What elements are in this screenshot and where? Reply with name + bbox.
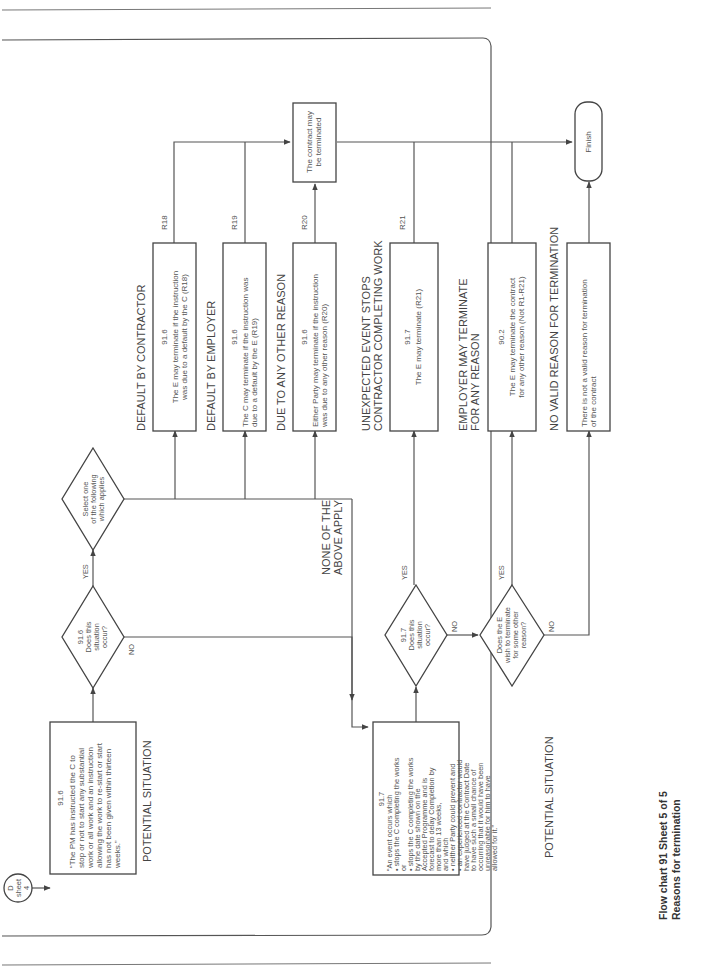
- no-label-917: NO: [450, 621, 459, 632]
- svg-text:NONE OF THE: NONE OF THE: [320, 500, 332, 575]
- svg-text:allowed for it.”: allowed for it.”: [490, 824, 499, 871]
- svg-text:• stops the C completing the w: • stops the C completing the works: [392, 757, 401, 871]
- svg-text:The contract may: The contract may: [305, 111, 314, 173]
- svg-text:The E may terminate (R21): The E may terminate (R21): [414, 288, 423, 385]
- svg-text:The C may terminate if the ins: The C may terminate if the instruction w…: [241, 278, 250, 427]
- svg-text:Finish: Finish: [584, 131, 593, 152]
- heading-default-contractor: DEFAULT BY CONTRACTOR: [135, 284, 147, 431]
- top-page-rule: [2, 8, 491, 10]
- svg-text:UNEXPECTED EVENT STOPS: UNEXPECTED EVENT STOPS: [360, 276, 372, 431]
- svg-text:91.6: 91.6: [160, 329, 169, 345]
- potential-situation-label-2: POTENTIAL SITUATION: [543, 736, 555, 858]
- svg-text:stop or not to start any subst: stop or not to start any substantial: [77, 748, 86, 868]
- svg-text:91.6: 91.6: [56, 790, 65, 806]
- svg-text:ABOVE APPLY: ABOVE APPLY: [332, 499, 344, 575]
- heading-employer-any-reason: EMPLOYER MAY TERMINATE FOR ANY REASON: [457, 278, 481, 431]
- svg-text:Either Party may terminate if: Either Party may terminate if the instru…: [311, 274, 320, 427]
- svg-text:Reasons for termination: Reasons for termination: [670, 799, 682, 920]
- svg-text:91.7: 91.7: [403, 329, 412, 345]
- ref-r21: R21: [398, 215, 407, 230]
- svg-text:91.6: 91.6: [300, 329, 309, 345]
- svg-text:The E may terminate if the ins: The E may terminate if the instruction: [171, 271, 180, 404]
- svg-text:be terminated: be terminated: [314, 118, 323, 167]
- bottom-page-rule: [2, 963, 491, 965]
- svg-text:due to a default by the E (R19: due to a default by the E (R19): [250, 318, 259, 427]
- yes-label-917: YES: [400, 565, 409, 580]
- potential-situation-label-1: POTENTIAL SITUATION: [141, 740, 153, 862]
- figure-caption: Flow chart 91 Sheet 5 of 5 Reasons for t…: [657, 791, 682, 920]
- svg-text:allowing the work to re-start: allowing the work to re-start or start: [95, 742, 104, 868]
- svg-text:4: 4: [22, 886, 31, 890]
- svg-text:There is not a valid reason fo: There is not a valid reason for terminat…: [580, 279, 589, 427]
- svg-text:CONTRACTOR COMPLETING WORK: CONTRACTOR COMPLETING WORK: [372, 240, 384, 431]
- no-label-916: NO: [127, 644, 136, 655]
- no-label-other: NO: [547, 621, 556, 632]
- heading-unexpected-event: UNEXPECTED EVENT STOPS CONTRACTOR COMPLE…: [360, 240, 384, 431]
- svg-text:Flow chart 91 Sheet 5 of 5: Flow chart 91 Sheet 5 of 5: [657, 791, 669, 920]
- svg-text:has not been given within thir: has not been given within thirteen: [104, 749, 113, 868]
- svg-text:90.2: 90.2: [497, 329, 506, 345]
- svg-text:was due to a default by the C: was due to a default by the C (R18): [180, 274, 189, 401]
- flowchart-page: D sheet 4 91.6 “The PM has instructed th…: [0, 0, 702, 975]
- heading-default-employer: DEFAULT BY EMPLOYER: [205, 301, 217, 431]
- svg-text:FOR ANY REASON: FOR ANY REASON: [469, 333, 481, 431]
- svg-text:which applies: which applies: [97, 477, 106, 523]
- svg-text:reason?: reason?: [519, 622, 528, 649]
- svg-text:for any other reason (Not R1-R: for any other reason (Not R1-R21): [517, 276, 526, 398]
- svg-text:occur?: occur?: [423, 624, 432, 646]
- svg-text:“The PM has instructed the C t: “The PM has instructed the C to: [68, 755, 77, 868]
- yes-label-other: YES: [497, 565, 506, 580]
- ref-r19: R19: [230, 215, 239, 230]
- svg-text:was due to any other reason (R: was due to any other reason (R20): [320, 303, 329, 428]
- heading-no-valid-reason: NO VALID REASON FOR TERMINATION: [548, 227, 560, 431]
- svg-text:of the contract: of the contract: [589, 376, 598, 427]
- none-apply-label: NONE OF THE ABOVE APPLY: [320, 499, 344, 575]
- ref-r20: R20: [300, 215, 309, 230]
- svg-text:EMPLOYER MAY TERMINATE: EMPLOYER MAY TERMINATE: [457, 278, 469, 431]
- ref-r18: R18: [160, 215, 169, 230]
- svg-text:work or all work and an instru: work or all work and an instruction: [86, 747, 95, 869]
- svg-text:91.6: 91.6: [230, 329, 239, 345]
- arrow-no-to-917: [124, 637, 368, 727]
- svg-text:occur?: occur?: [100, 626, 109, 648]
- svg-text:weeks.”: weeks.”: [113, 840, 122, 869]
- yes-label-916: YES: [81, 564, 90, 579]
- svg-text:The E may terminate the contra: The E may terminate the contract: [508, 277, 517, 396]
- heading-other-reason: DUE TO ANY OTHER REASON: [275, 274, 287, 431]
